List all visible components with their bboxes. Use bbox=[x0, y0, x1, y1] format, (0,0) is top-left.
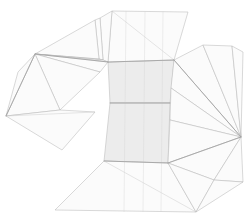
net-face-core-band-1 bbox=[104, 103, 170, 163]
net-face-left-fan-0 bbox=[35, 20, 99, 59]
net-face-top-flap-0 bbox=[108, 11, 188, 62]
net-face-left-lower-flap-0 bbox=[6, 110, 95, 150]
net-face-core-band-0 bbox=[108, 60, 174, 103]
mesh-net-svg bbox=[0, 0, 250, 221]
diagram-canvas bbox=[0, 0, 250, 221]
